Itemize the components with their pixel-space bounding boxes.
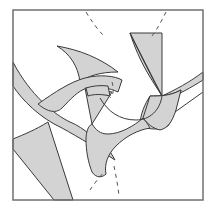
diagram-canvas [0, 0, 214, 212]
center-tab-shape [86, 86, 110, 96]
